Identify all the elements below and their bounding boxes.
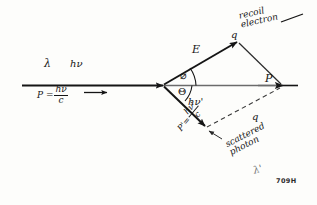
p-vector-label: P xyxy=(265,73,272,84)
recoil-electron-pointer xyxy=(281,14,303,22)
momentum-prefix: P = xyxy=(37,91,53,100)
plate-number: 709H xyxy=(276,178,297,185)
theta-angle-label: Θ xyxy=(178,87,186,97)
momentum-numerator: hν xyxy=(54,85,67,95)
incident-wavelength-label: λ xyxy=(44,58,51,69)
compton-scattering-figure: λ hν P = hν c ⌀ Θ E q P q hν' recoil ele… xyxy=(0,0,317,205)
q-vector xyxy=(239,43,281,84)
momentum-fraction: hν c xyxy=(54,85,67,105)
phi-angle-arc xyxy=(190,68,196,86)
incident-photon-energy-label: hν xyxy=(70,59,83,69)
incident-momentum-equation: P = hν c xyxy=(37,86,68,106)
momentum-denominator: c xyxy=(54,96,67,105)
energy-vector-E xyxy=(164,42,237,85)
scattered-photon-leader xyxy=(209,131,222,139)
energy-vector-label: E xyxy=(192,44,200,55)
q-vertex-label: q xyxy=(231,30,237,40)
q-dashed-label: q xyxy=(252,112,258,122)
phi-angle-label: ⌀ xyxy=(180,70,187,81)
q-dashed-construction-line xyxy=(207,88,280,127)
